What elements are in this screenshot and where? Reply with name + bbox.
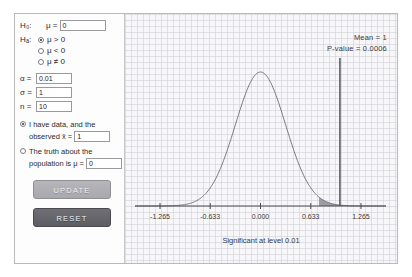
alt-option-greater[interactable]: μ > 0 (38, 35, 124, 44)
null-mean-input[interactable]: 0 (60, 20, 106, 31)
reset-button[interactable]: RESET (33, 208, 111, 227)
have-data-label: I have data, and the (29, 120, 95, 129)
control-panel: H₀: μ = 0 Hₐ: μ > 0 μ < 0 μ ≠ 0 α = 0.01… (15, 14, 125, 263)
observed-mean-input[interactable]: 1 (74, 131, 110, 142)
pvalue-annotation: P-value = 0.0006 (327, 44, 387, 53)
truth-option[interactable]: The truth about the (20, 147, 124, 156)
normal-curve (135, 72, 386, 206)
truth-label: The truth about the (29, 147, 92, 156)
sigma-row: σ = 1 (20, 87, 124, 98)
alt-option-notequal-label: μ ≠ 0 (47, 57, 65, 66)
alt-hypothesis-label: Hₐ: (20, 35, 36, 44)
alpha-input[interactable]: 0.01 (36, 73, 72, 84)
population-mean-row: population is μ = 0 (29, 158, 124, 169)
null-hypothesis-row: H₀: μ = 0 (20, 20, 124, 31)
sigma-input[interactable]: 1 (36, 87, 72, 98)
sigma-label: σ = (20, 88, 36, 97)
have-data-option[interactable]: I have data, and the (20, 120, 124, 129)
alt-option-less-label: μ < 0 (47, 46, 65, 55)
population-mean-label: population is μ = (29, 159, 84, 168)
sample-size-row: n = 10 (20, 101, 124, 112)
alpha-label: α = (20, 74, 36, 83)
mean-annotation: Mean = 1 (354, 33, 387, 42)
rejection-region-shading (319, 197, 386, 206)
tick-label-3: 0.633 (302, 213, 320, 220)
data-source-group: I have data, and the observed x̄ = 1 The… (20, 120, 124, 169)
sample-size-input[interactable]: 10 (36, 101, 72, 112)
tick-label-0: -1.265 (150, 213, 170, 220)
radio-icon-truth[interactable] (20, 148, 26, 154)
tick-label-1: -0.633 (200, 213, 220, 220)
radio-icon-less[interactable] (38, 48, 44, 54)
alt-option-notequal[interactable]: μ ≠ 0 (38, 57, 124, 66)
null-hypothesis-operator: μ = (46, 21, 58, 30)
null-hypothesis-label: H₀: (20, 21, 36, 30)
distribution-plot: Mean = 1 P-value = 0.0006 -1.265-0.6330.… (125, 14, 397, 263)
applet-window: H₀: μ = 0 Hₐ: μ > 0 μ < 0 μ ≠ 0 α = 0.01… (14, 13, 398, 264)
tick-label-4: 1.265 (352, 213, 370, 220)
alpha-row: α = 0.01 (20, 73, 124, 84)
parameters-group: α = 0.01 σ = 1 n = 10 (20, 73, 124, 112)
radio-icon-have-data[interactable] (20, 121, 26, 127)
alt-option-less[interactable]: μ < 0 (38, 46, 124, 55)
sample-size-label: n = (20, 102, 36, 111)
radio-icon-greater[interactable] (38, 37, 44, 43)
tick-label-2: 0.000 (252, 213, 270, 220)
observed-mean-row: observed x̄ = 1 (29, 131, 124, 142)
radio-icon-notequal[interactable] (38, 59, 44, 65)
population-mean-input[interactable]: 0 (86, 158, 122, 169)
alt-option-greater-label: μ > 0 (47, 35, 65, 44)
update-button[interactable]: UPDATE (33, 180, 111, 199)
significance-caption: Significant at level 0.01 (125, 236, 397, 245)
observed-mean-label: observed x̄ = (29, 132, 72, 141)
